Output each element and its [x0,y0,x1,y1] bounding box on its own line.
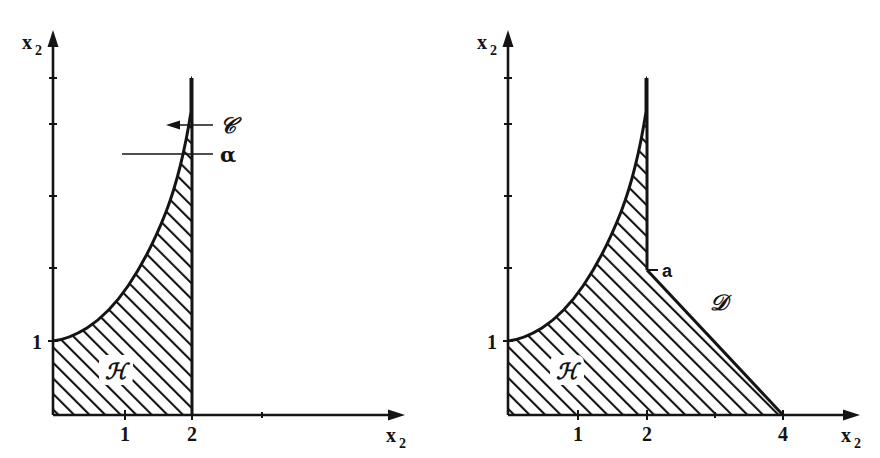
alpha-level-annotation: α [122,142,236,167]
y-tick-label-1: 1 [487,331,497,353]
y-axis-label-sub: 2 [490,43,497,58]
y-axis-arrowhead [48,30,59,47]
curve-callout-C: 𝒞 [166,112,242,138]
x-tick-label-2: 2 [187,423,197,445]
x-tick-label-2: 2 [642,423,652,445]
y-tick-label-1: 1 [32,331,42,353]
set-D-label: 𝒟 [710,289,732,315]
panel-left: 1 1 2 x 2 x 2 𝒞 α ℋ [0,0,440,458]
x-axis-label: x 2 [841,424,861,451]
panel-right: 1 1 2 4 x 2 x 2 a 𝒟 ℋ [440,0,880,458]
x-axis-label: x 2 [386,424,406,451]
y-axis-label-var: x [477,31,487,53]
region-A-fill [40,60,230,430]
region-A-label-group: ℋ [99,355,133,385]
callout-C-arrowhead [166,121,180,130]
x-tick-label-1: 1 [120,423,130,445]
x-axis-label-var: x [386,424,396,446]
x-axis-arrowhead [843,410,860,421]
y-axis-arrowhead [503,30,514,47]
y-axis-label: x 2 [477,31,497,58]
figure-root: 1 1 2 x 2 x 2 𝒞 α ℋ [0,0,880,458]
region-A-label-group: ℋ [550,355,584,385]
x-axis-label-sub: 2 [854,436,861,451]
x-axis-label-var: x [841,424,851,446]
hatch-pattern-fill [40,60,230,430]
x-tick-label-4: 4 [778,423,788,445]
y-axis-label-sub: 2 [35,43,42,58]
set-C-label: 𝒞 [220,112,242,138]
point-a-label: a [662,261,673,281]
x-axis-arrowhead [388,410,405,421]
y-axis-label-var: x [22,31,32,53]
x-tick-label-1: 1 [573,423,583,445]
alpha-label: α [220,142,236,167]
y-axis-label: x 2 [22,31,42,58]
x-axis-label-sub: 2 [399,436,406,451]
